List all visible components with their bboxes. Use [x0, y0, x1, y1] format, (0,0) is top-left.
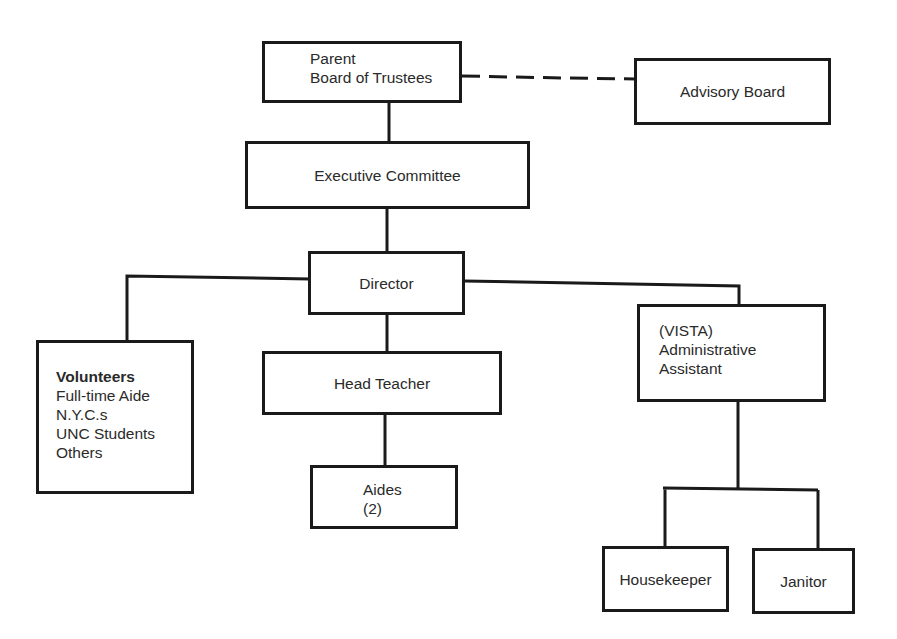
volunteers-line1: Full-time Aide — [56, 386, 191, 405]
node-director: Director — [308, 251, 465, 315]
board-line2: Board of Trustees — [310, 68, 459, 87]
board-line1: Parent — [310, 49, 459, 68]
director-label: Director — [359, 274, 413, 293]
node-advisory-board: Advisory Board — [634, 58, 831, 125]
volunteers-line4: Others — [56, 443, 191, 462]
volunteers-line2: N.Y.C.s — [56, 405, 191, 424]
aides-line2: (2) — [363, 499, 455, 518]
connector-admin-staff — [663, 401, 818, 549]
head-teacher-label: Head Teacher — [334, 374, 430, 393]
node-board-of-trustees: Parent Board of Trustees — [262, 41, 462, 103]
volunteers-line3: UNC Students — [56, 424, 191, 443]
node-volunteers: Volunteers Full-time Aide N.Y.C.s UNC St… — [36, 340, 194, 494]
node-janitor: Janitor — [752, 548, 855, 614]
node-executive-committee: Executive Committee — [245, 141, 530, 209]
admin-line1: (VISTA) — [659, 321, 823, 340]
connector-director-admin — [464, 281, 739, 305]
connector-director-volunteers — [127, 276, 310, 341]
housekeeper-label: Housekeeper — [619, 570, 711, 589]
dashed-connector-board-advisory — [462, 76, 636, 79]
admin-line2: Administrative — [659, 340, 823, 359]
node-housekeeper: Housekeeper — [602, 546, 729, 612]
admin-line3: Assistant — [659, 359, 823, 378]
node-aides: Aides (2) — [310, 465, 458, 529]
exec-label: Executive Committee — [314, 166, 460, 185]
janitor-label: Janitor — [780, 572, 827, 591]
node-head-teacher: Head Teacher — [262, 351, 502, 415]
advisory-label: Advisory Board — [680, 82, 785, 101]
aides-line1: Aides — [363, 480, 455, 499]
node-administrative-assistant: (VISTA) Administrative Assistant — [637, 304, 826, 402]
volunteers-title: Volunteers — [56, 367, 191, 386]
